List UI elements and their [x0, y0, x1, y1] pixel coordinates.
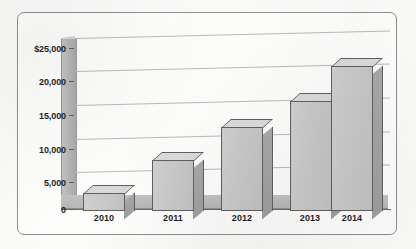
chart-figure: $25,000 20,000 15,000 10,000 5,000 0 [0, 0, 416, 249]
x-tick-label: 2014 [326, 213, 378, 224]
x-tick-label: 2012 [216, 213, 268, 224]
x-axis: 2010 2011 2012 2013 2014 [0, 0, 416, 249]
x-tick-label: 2010 [78, 213, 130, 224]
x-tick-label: 2011 [147, 213, 199, 224]
